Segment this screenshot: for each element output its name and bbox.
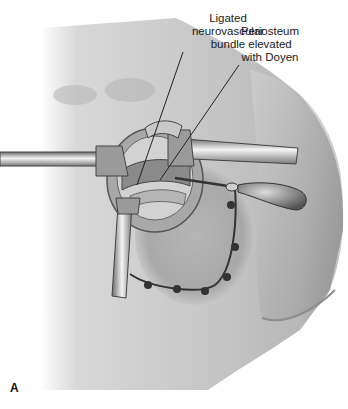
label-periosteum-elevated: Periosteum elevated with Doyen: [230, 25, 310, 64]
surgical-illustration: Ligated neurovascular bundle Periosteum …: [0, 0, 348, 409]
panel-letter: A: [10, 381, 19, 395]
